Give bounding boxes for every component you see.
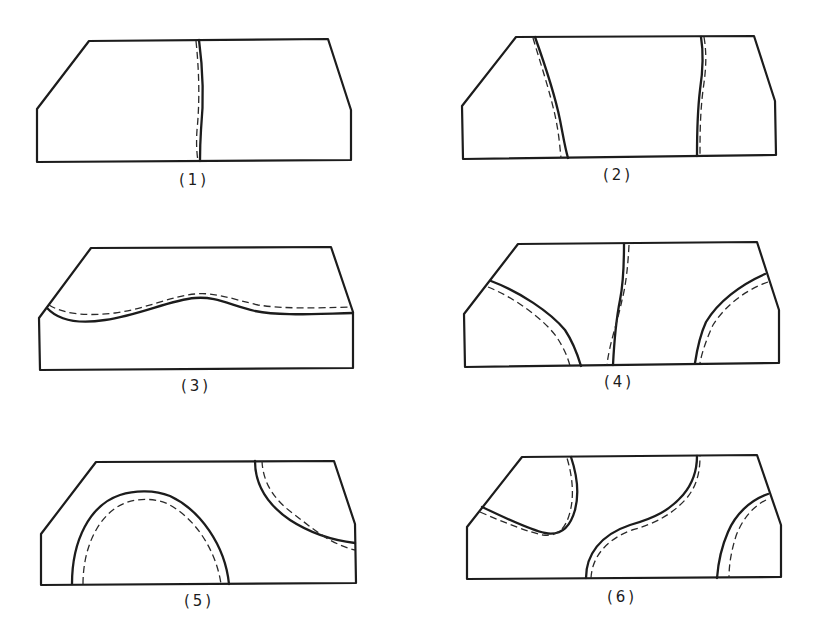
panel-4-label: (4) [604, 373, 634, 391]
panel-6-label: (6) [607, 588, 637, 606]
panel-5-outline [41, 461, 356, 585]
panel-5 [41, 461, 356, 585]
panel-4-solid-arc-left [491, 281, 581, 366]
panel-1-dashed-boundary [196, 41, 199, 161]
panel-1-solid-boundary [199, 40, 203, 161]
panel-6-dashed-arc-right [729, 500, 766, 578]
panel-5-solid-arch [72, 491, 229, 584]
panel-6-solid-s-curve [586, 456, 697, 578]
panel-4-solid-line-center [613, 244, 624, 365]
panel-1-outline [37, 39, 351, 162]
panel-4-dashed-arc-right [700, 282, 768, 363]
panel-5-dashed-arc-corner [262, 461, 355, 550]
panel-4 [464, 242, 779, 367]
panel-2-outline [462, 36, 776, 159]
panel-6-dashed-s-curve [591, 456, 700, 578]
panel-3-label: (3) [181, 377, 211, 395]
diagram-canvas [0, 0, 818, 638]
panel-6 [467, 455, 781, 579]
panel-6-outline [467, 455, 781, 579]
panel-3-outline [39, 247, 353, 370]
panel-1 [37, 39, 351, 162]
panel-1-label: (1) [179, 171, 209, 189]
panel-2-solid-boundary-left [535, 37, 568, 158]
panel-6-solid-arc-right [717, 494, 768, 578]
panel-5-dashed-arch [83, 499, 221, 584]
panel-2-label: (2) [603, 166, 633, 184]
panel-6-dashed-u-loop [480, 458, 572, 535]
panel-5-label: (5) [184, 592, 214, 610]
panel-2-dashed-boundary-left [533, 38, 561, 158]
panel-2 [462, 36, 776, 159]
panel-5-solid-arc-corner [255, 461, 355, 543]
panel-3 [39, 247, 353, 370]
panel-3-solid-boundary [47, 298, 353, 322]
panel-6-solid-u-loop [482, 457, 577, 534]
